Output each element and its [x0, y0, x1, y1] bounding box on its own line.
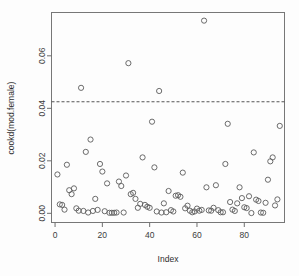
figure-container: 0.000.020.040.06 020406080 Index cookd(m… [0, 0, 299, 276]
y-tick-label: 0.04 [37, 100, 47, 117]
data-point [93, 196, 98, 201]
data-point [180, 170, 185, 175]
data-point [157, 88, 162, 93]
data-point [272, 203, 277, 208]
data-point [123, 173, 128, 178]
data-point [213, 183, 218, 188]
data-point [152, 165, 157, 170]
data-point [249, 210, 254, 215]
data-point [104, 181, 109, 186]
data-point [225, 121, 230, 126]
data-point [121, 210, 126, 215]
data-point [119, 183, 124, 188]
data-point [78, 85, 83, 90]
data-point [204, 185, 209, 190]
data-point [277, 123, 282, 128]
data-point [227, 199, 232, 204]
data-point [97, 161, 102, 166]
y-tick-label: 0.00 [37, 205, 47, 222]
y-tick-label: 0.02 [37, 152, 47, 169]
scatter-plot: 0.000.020.040.06 020406080 Index cookd(m… [0, 0, 299, 276]
data-point [62, 207, 67, 212]
y-axis-title: cookd(mod.female) [6, 81, 16, 154]
data-point [223, 161, 228, 166]
data-point [64, 162, 69, 167]
x-tick-label: 40 [145, 230, 155, 240]
data-point [95, 207, 100, 212]
data-point [275, 197, 280, 202]
x-axis-ticks: 020406080 [53, 223, 250, 240]
data-point [126, 61, 131, 66]
data-point [201, 18, 206, 23]
data-point [133, 196, 138, 201]
data-point [166, 188, 171, 193]
data-point [140, 155, 145, 160]
data-point [69, 192, 74, 197]
data-point [100, 169, 105, 174]
data-point [55, 172, 60, 177]
x-tick-label: 80 [240, 230, 250, 240]
data-point [270, 155, 275, 160]
x-tick-label: 20 [98, 230, 108, 240]
x-tick-label: 0 [53, 230, 58, 240]
data-point [263, 200, 268, 205]
y-tick-label: 0.06 [37, 47, 47, 64]
data-point [88, 137, 93, 142]
data-point [161, 201, 166, 206]
data-point [265, 177, 270, 182]
data-point [251, 150, 256, 155]
data-point [246, 194, 251, 199]
x-tick-label: 60 [192, 230, 202, 240]
plot-frame [52, 13, 285, 223]
data-point [237, 185, 242, 190]
data-point [71, 186, 76, 191]
y-axis-ticks: 0.000.020.040.06 [37, 47, 52, 221]
data-point [149, 119, 154, 124]
data-point [83, 149, 88, 154]
data-point [235, 201, 240, 206]
data-point [239, 195, 244, 200]
data-points-group [55, 18, 283, 216]
x-axis-title: Index [158, 254, 180, 264]
